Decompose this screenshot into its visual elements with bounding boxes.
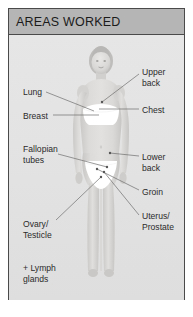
upper-back-dot	[101, 101, 103, 103]
label-chest: Chest	[142, 105, 164, 116]
areas-worked-diagram: AREAS WORKED	[0, 0, 193, 317]
fallopian-tubes-dot	[106, 166, 108, 168]
label-lower-back: Lower back	[142, 152, 165, 173]
label-lung: Lung	[23, 87, 42, 98]
label-lymph-glands: + Lymph glands	[23, 263, 56, 284]
label-fallopian-tubes: Fallopian tubes	[23, 144, 58, 165]
ovary-testicle-dot	[100, 176, 102, 178]
panel-titlebar: AREAS WORKED	[9, 9, 184, 35]
label-ovary-testicle: Ovary/ Testicle	[23, 219, 52, 240]
label-breast: Breast	[23, 111, 48, 122]
diagram-body: Lung Breast Fallopian tubes Ovary/ Testi…	[9, 35, 184, 300]
label-groin: Groin	[142, 187, 163, 198]
label-uterus-prostate: Uterus/ Prostate	[142, 211, 174, 232]
groin-dot	[96, 168, 98, 170]
page-title: AREAS WORKED	[9, 15, 121, 29]
diagram-panel: AREAS WORKED	[8, 8, 185, 300]
label-upper-back: Upper back	[142, 67, 165, 88]
figure-group	[73, 46, 129, 277]
uterus-prostate-dot	[103, 171, 105, 173]
lower-back-dot	[109, 152, 111, 154]
